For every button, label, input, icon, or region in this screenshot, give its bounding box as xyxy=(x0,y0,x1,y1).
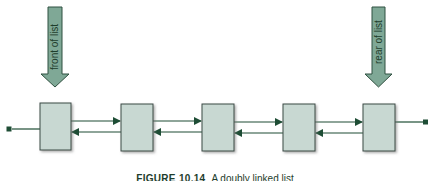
rear-of-list-label: rear of list xyxy=(373,20,384,64)
list-node xyxy=(283,104,315,151)
figure-caption: FIGURE 10.14A doubly linked list xyxy=(0,173,430,181)
null-terminator-left xyxy=(7,127,41,132)
null-marker-icon xyxy=(7,127,12,132)
front-of-list-label: front of list xyxy=(49,24,60,70)
list-node xyxy=(363,104,395,151)
caption-text: A doubly linked list xyxy=(211,173,293,181)
list-node xyxy=(121,104,153,151)
doubly-linked-list-diagram: front of list rear of list xyxy=(0,0,430,181)
front-of-list-pointer: front of list xyxy=(41,7,69,87)
list-node xyxy=(202,104,234,151)
list-nodes xyxy=(40,103,395,151)
rear-of-list-pointer: rear of list xyxy=(365,7,392,87)
null-marker-icon xyxy=(423,120,428,125)
figure-label: FIGURE 10.14 xyxy=(136,173,205,181)
null-terminator-right xyxy=(395,120,428,125)
list-node xyxy=(40,103,71,150)
